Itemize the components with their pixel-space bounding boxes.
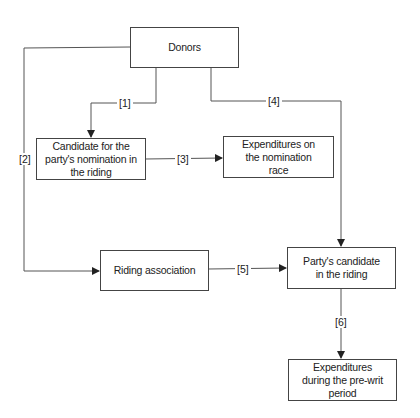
node-donors-label: Donors (168, 41, 201, 54)
node-donors: Donors (130, 27, 239, 68)
node-candidate-nomination-label: Candidate for the party's nomination in … (43, 140, 139, 179)
edge-1-label: [1] (117, 97, 133, 109)
node-candidate-nomination: Candidate for the party's nomination in … (36, 138, 146, 180)
node-expenditures-prewrit: Expenditures during the pre-writ period (288, 359, 397, 401)
node-party-candidate: Party's candidate in the riding (287, 247, 396, 289)
node-expenditures-prewrit-label: Expenditures during the pre-writ period (299, 361, 386, 400)
node-expenditures-nomination-label: Expenditures on the nomination race (236, 138, 321, 177)
node-expenditures-nomination: Expenditures on the nomination race (223, 136, 334, 178)
node-riding-association-label: Riding association (114, 264, 196, 277)
edge-2-label: [2] (17, 153, 33, 165)
edge-6-label: [6] (333, 316, 349, 328)
edge-3-label: [3] (175, 153, 191, 165)
edge-5-label: [5] (235, 263, 251, 275)
edge-4-label: [4] (266, 95, 282, 107)
node-riding-association: Riding association (100, 250, 209, 291)
node-party-candidate-label: Party's candidate in the riding (302, 255, 381, 281)
